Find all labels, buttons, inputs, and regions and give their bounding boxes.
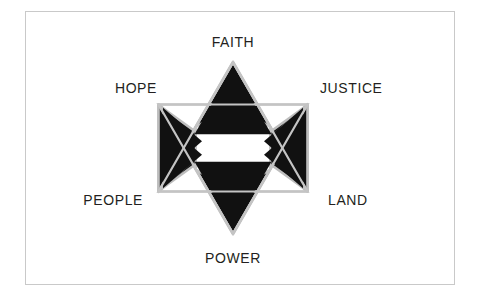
label-land: LAND	[328, 193, 368, 207]
label-faith: FAITH	[212, 35, 255, 49]
label-hope: HOPE	[115, 81, 157, 95]
star-point-top-fill	[195, 68, 272, 135]
label-power: POWER	[205, 251, 261, 265]
label-people: PEOPLE	[83, 193, 143, 207]
diagram-canvas: FAITH HOPE JUSTICE PEOPLE LAND POWER	[0, 0, 481, 298]
label-justice: JUSTICE	[320, 81, 383, 95]
star-point-bottom-fill	[195, 162, 272, 229]
